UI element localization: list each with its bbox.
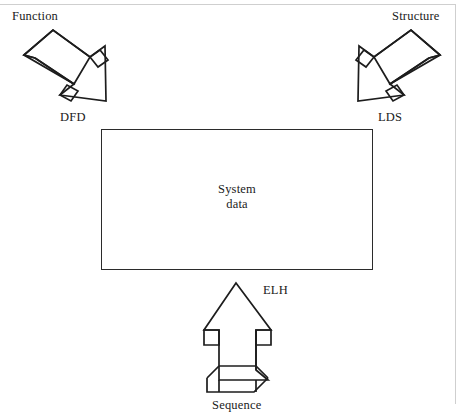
scan-rule-right [455, 4, 456, 404]
function-dfd-arrow [24, 30, 108, 101]
sequence-elh-arrow [204, 283, 271, 392]
system-data-box: System data [101, 129, 373, 270]
system-data-label: System data [102, 182, 372, 212]
diagram-canvas: System data Function Structure DFD LDS E… [0, 0, 464, 419]
label-lds: LDS [378, 110, 402, 125]
label-sequence: Sequence [212, 398, 262, 413]
label-elh: ELH [263, 283, 288, 298]
structure-lds-arrow [356, 30, 440, 101]
scan-rule-top [0, 4, 456, 5]
label-structure: Structure [392, 9, 440, 24]
label-dfd: DFD [60, 110, 86, 125]
label-function: Function [12, 9, 58, 24]
